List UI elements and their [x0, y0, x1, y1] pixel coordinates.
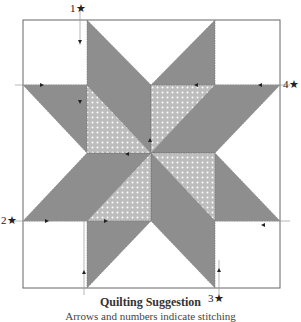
- diagram-title: Quilting Suggestion: [0, 295, 301, 310]
- start-marker-2: 2★: [1, 214, 17, 227]
- quilt-block-diagram: [0, 0, 301, 300]
- start-marker-4: 4★: [283, 78, 299, 91]
- diagram-subtitle: Arrows and numbers indicate stitching: [0, 310, 301, 322]
- start-marker-1: 1★: [70, 2, 86, 15]
